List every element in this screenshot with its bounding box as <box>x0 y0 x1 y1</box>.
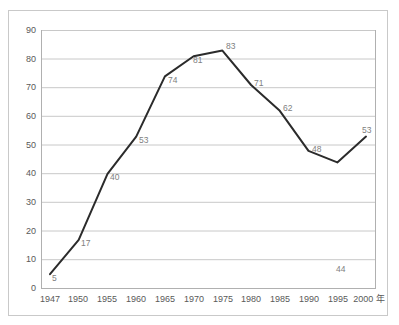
data-label-1965: 74 <box>168 76 177 85</box>
ytick-label-10: 10 <box>14 254 36 264</box>
data-label-1960: 53 <box>139 136 148 145</box>
ytick-label-20: 20 <box>14 226 36 236</box>
data-label-1985: 62 <box>283 104 292 113</box>
data-label-1955: 40 <box>110 173 119 182</box>
xtick-label-2000: 2000 年 <box>346 294 392 304</box>
data-label-1950: 17 <box>81 239 90 248</box>
data-label-1947: 5 <box>52 274 57 283</box>
ytick-label-40: 40 <box>14 168 36 178</box>
ytick-label-80: 80 <box>14 54 36 64</box>
ytick-label-50: 50 <box>14 140 36 150</box>
data-label-1970: 81 <box>193 56 202 65</box>
line-chart <box>0 0 399 325</box>
ytick-label-70: 70 <box>14 82 36 92</box>
plot-background <box>41 30 376 288</box>
ytick-label-0: 0 <box>14 283 36 293</box>
data-label-1980: 71 <box>254 79 263 88</box>
data-label-2000: 53 <box>362 126 371 135</box>
ytick-label-30: 30 <box>14 197 36 207</box>
ytick-label-90: 90 <box>14 25 36 35</box>
data-label-1990: 48 <box>312 145 321 154</box>
data-label-1975: 83 <box>226 42 235 51</box>
data-label-1995: 44 <box>336 265 345 274</box>
ytick-label-60: 60 <box>14 111 36 121</box>
